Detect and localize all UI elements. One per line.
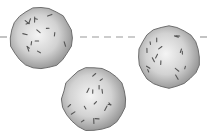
- speck-mark: [31, 42, 32, 45]
- sphere-body: [139, 26, 200, 89]
- sphere-right: [139, 26, 200, 89]
- sphere-left: [10, 8, 72, 69]
- speck-mark: [185, 66, 186, 68]
- sphere-bottom: [61, 68, 125, 131]
- diagram-canvas: [0, 0, 212, 139]
- speck-mark: [102, 89, 103, 93]
- sphere-body: [10, 8, 72, 69]
- spheres-group: [10, 8, 199, 131]
